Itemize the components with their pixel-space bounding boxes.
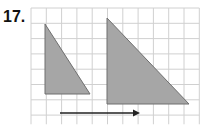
image-triangle (107, 18, 189, 104)
preimage-triangle (45, 24, 90, 94)
dilation-diagram (0, 0, 210, 127)
